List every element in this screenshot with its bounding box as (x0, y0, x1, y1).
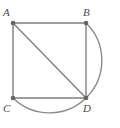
vertex-label-a: A (3, 7, 10, 18)
geometry-canvas (0, 0, 120, 128)
vertex-dot-c (11, 96, 16, 101)
diagonal-ad (13, 23, 86, 98)
vertex-dot-b (84, 21, 89, 26)
vertex-label-d: D (83, 103, 91, 114)
geometry-figure: A B C D (0, 0, 120, 128)
vertex-dot-a (11, 21, 16, 26)
vertex-label-b: B (83, 7, 90, 18)
vertex-dot-d (84, 96, 89, 101)
vertex-label-c: C (3, 103, 10, 114)
